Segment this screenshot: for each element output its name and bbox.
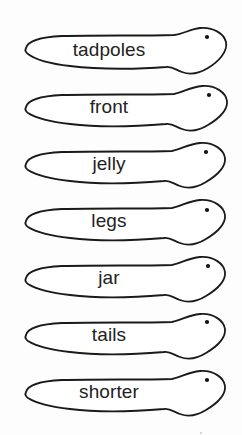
- tadpole-word-card: tails: [22, 311, 230, 363]
- tadpole-word-card: front: [22, 83, 230, 135]
- tadpole-word-card: legs: [22, 197, 230, 249]
- card-word: jelly: [22, 150, 196, 178]
- worksheet: tadpoles front jelly legs jar: [0, 0, 242, 435]
- card-word: tadpoles: [22, 36, 196, 64]
- tadpole-word-card: tadpoles: [22, 26, 230, 78]
- tadpole-word-card: jelly: [22, 140, 230, 192]
- card-word: tails: [22, 321, 196, 349]
- card-word: jar: [22, 264, 196, 292]
- scan-speck: [200, 432, 202, 434]
- tadpole-word-card: jar: [22, 254, 230, 306]
- tadpole-word-card: shorter: [22, 368, 230, 420]
- card-word: legs: [22, 207, 196, 235]
- card-word: front: [22, 93, 196, 121]
- card-word: shorter: [22, 378, 196, 406]
